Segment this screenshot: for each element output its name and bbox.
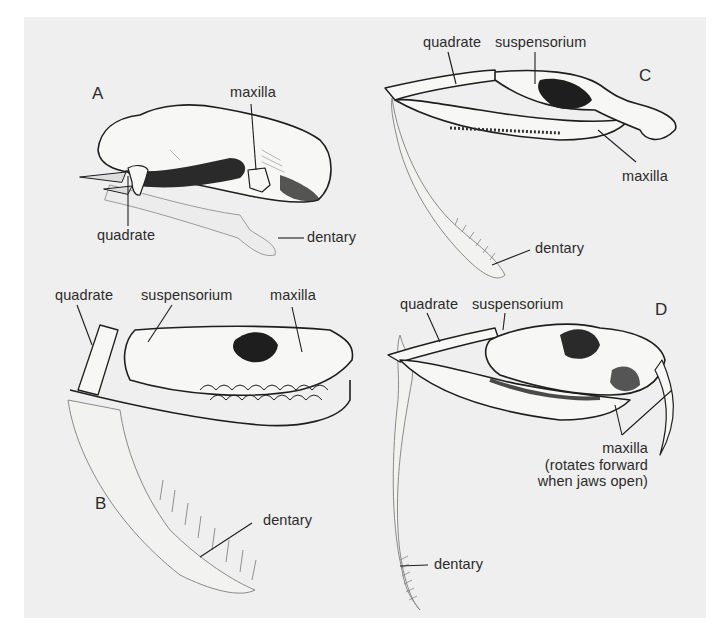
label-b-suspensorium: suspensorium — [141, 287, 232, 304]
label-b-quadrate: quadrate — [55, 287, 113, 304]
label-d-maxilla-line2: (rotates forward — [520, 457, 648, 474]
label-d-maxilla-line3: when jaws open) — [520, 473, 648, 490]
label-d-maxilla-line1: maxilla — [520, 440, 648, 457]
label-d-quadrate: quadrate — [400, 296, 458, 313]
label-b-maxilla: maxilla — [270, 287, 316, 304]
label-c-maxilla: maxilla — [622, 168, 668, 185]
label-a-dentary: dentary — [307, 229, 356, 246]
panel-letter-c: C — [639, 66, 651, 86]
label-c-dentary: dentary — [535, 240, 584, 257]
label-c-quadrate: quadrate — [423, 34, 481, 51]
label-d-suspensorium: suspensorium — [472, 296, 563, 313]
label-c-suspensorium: suspensorium — [495, 34, 586, 51]
panel-letter-d: D — [655, 300, 667, 320]
panel-letter-a: A — [92, 84, 103, 104]
label-a-quadrate: quadrate — [97, 227, 155, 244]
panel-letter-b: B — [95, 494, 106, 514]
label-d-maxilla: maxilla (rotates forward when jaws open) — [520, 440, 648, 490]
label-a-maxilla: maxilla — [230, 84, 276, 101]
label-b-dentary: dentary — [263, 512, 312, 529]
snake-skull-illustrations — [0, 0, 723, 640]
label-d-dentary: dentary — [434, 556, 483, 573]
skull-b-drawing — [68, 325, 353, 593]
